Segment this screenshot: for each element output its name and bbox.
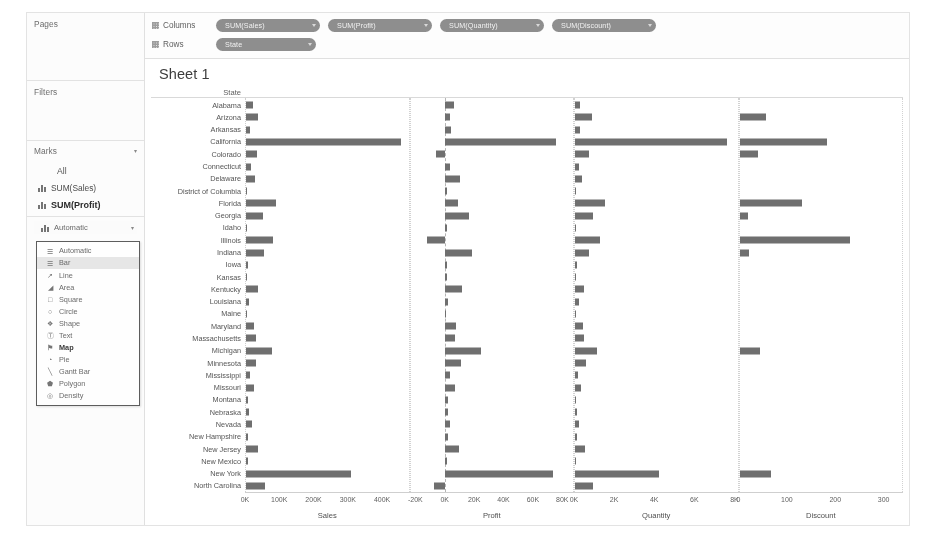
bar-mark[interactable]: [445, 138, 556, 145]
bar-mark[interactable]: [246, 409, 249, 416]
bar-mark[interactable]: [575, 102, 580, 109]
bar-mark[interactable]: [575, 175, 582, 182]
bar-mark[interactable]: [445, 433, 447, 440]
bar-mark[interactable]: [575, 114, 592, 121]
mark-type-option-gantt-bar[interactable]: ╲ Gantt Bar: [37, 366, 139, 378]
mark-type-option-pie[interactable]: ◔ Pie: [37, 354, 139, 366]
bar-mark[interactable]: [740, 151, 759, 158]
bar-mark[interactable]: [246, 384, 254, 391]
bar-mark[interactable]: [740, 114, 767, 121]
bar-mark[interactable]: [445, 458, 447, 465]
bar-mark[interactable]: [246, 360, 256, 367]
bar-mark[interactable]: [575, 360, 586, 367]
pill-sum-discount[interactable]: SUM(Discount): [552, 19, 656, 32]
bar-mark[interactable]: [740, 347, 761, 354]
bar-mark[interactable]: [740, 138, 828, 145]
bar-mark[interactable]: [246, 458, 248, 465]
mark-type-option-square[interactable]: □ Square: [37, 293, 139, 305]
bar-mark[interactable]: [246, 446, 258, 453]
bar-mark[interactable]: [575, 372, 578, 379]
marks-tab-sum-sales[interactable]: SUM(Sales): [34, 179, 137, 196]
mark-type-option-shape[interactable]: ❖ Shape: [37, 317, 139, 329]
bar-mark[interactable]: [246, 347, 272, 354]
bar-mark[interactable]: [575, 151, 589, 158]
bar-mark[interactable]: [445, 421, 450, 428]
bar-mark[interactable]: [246, 151, 257, 158]
bar-mark[interactable]: [575, 310, 576, 317]
bar-mark[interactable]: [434, 482, 445, 489]
bar-mark[interactable]: [427, 237, 445, 244]
bar-mark[interactable]: [246, 323, 254, 330]
mark-type-option-circle[interactable]: ○ Circle: [37, 305, 139, 317]
bar-mark[interactable]: [575, 261, 577, 268]
bar-mark[interactable]: [246, 163, 251, 170]
pages-shelf[interactable]: Pages: [27, 13, 144, 81]
bar-mark[interactable]: [575, 458, 576, 465]
bar-mark[interactable]: [445, 470, 552, 477]
axis-title[interactable]: Sales: [245, 511, 410, 520]
bar-mark[interactable]: [445, 212, 469, 219]
bar-mark[interactable]: [445, 310, 446, 317]
rows-shelf[interactable]: Rows State: [145, 35, 909, 54]
bar-mark[interactable]: [246, 482, 265, 489]
bar-mark[interactable]: [246, 249, 264, 256]
bar-mark[interactable]: [575, 384, 581, 391]
mark-type-option-line[interactable]: ↗ Line: [37, 269, 139, 281]
bar-mark[interactable]: [246, 286, 258, 293]
mark-type-dropdown-button[interactable]: Automatic ▾: [34, 221, 137, 234]
bar-mark[interactable]: [575, 470, 659, 477]
bar-mark[interactable]: [740, 212, 748, 219]
bar-mark[interactable]: [246, 114, 258, 121]
bar-mark[interactable]: [445, 347, 480, 354]
bar-mark[interactable]: [575, 237, 600, 244]
bar-mark[interactable]: [740, 470, 772, 477]
axis-title[interactable]: Profit: [410, 511, 575, 520]
bar-mark[interactable]: [246, 433, 248, 440]
pill-sum-quantity[interactable]: SUM(Quantity): [440, 19, 544, 32]
bar-mark[interactable]: [445, 261, 447, 268]
bar-mark[interactable]: [246, 224, 247, 231]
bar-mark[interactable]: [246, 237, 273, 244]
columns-shelf[interactable]: Columns SUM(Sales) SUM(Profit) SUM(Quant…: [145, 16, 909, 35]
bar-mark[interactable]: [740, 249, 749, 256]
bar-mark[interactable]: [575, 163, 579, 170]
bar-mark[interactable]: [575, 347, 597, 354]
bar-mark[interactable]: [445, 372, 450, 379]
bar-mark[interactable]: [445, 163, 450, 170]
bar-mark[interactable]: [445, 446, 459, 453]
mark-type-dropdown-menu[interactable]: ☰ Automatic ☰ Bar ↗ Line ◢ Area □ Squa: [36, 241, 140, 406]
bar-mark[interactable]: [445, 360, 461, 367]
bar-mark[interactable]: [575, 249, 589, 256]
bar-mark[interactable]: [575, 188, 576, 195]
mark-type-option-density[interactable]: ◎ Density: [37, 390, 139, 402]
bar-mark[interactable]: [246, 138, 401, 145]
pill-state[interactable]: State: [216, 38, 316, 51]
marks-tab-all[interactable]: All: [34, 162, 137, 179]
bar-mark[interactable]: [445, 384, 454, 391]
bar-mark[interactable]: [575, 409, 577, 416]
bar-mark[interactable]: [575, 298, 579, 305]
bar-mark[interactable]: [575, 335, 584, 342]
bar-mark[interactable]: [445, 298, 448, 305]
bar-mark[interactable]: [575, 224, 576, 231]
bar-mark[interactable]: [445, 274, 446, 281]
bar-mark[interactable]: [575, 446, 585, 453]
bar-mark[interactable]: [445, 200, 458, 207]
bar-mark[interactable]: [575, 482, 593, 489]
bar-mark[interactable]: [445, 224, 446, 231]
bar-mark[interactable]: [445, 249, 472, 256]
bar-mark[interactable]: [575, 433, 577, 440]
bar-mark[interactable]: [246, 102, 253, 109]
bar-mark[interactable]: [445, 126, 451, 133]
filters-shelf[interactable]: Filters: [27, 81, 144, 141]
bar-mark[interactable]: [740, 200, 802, 207]
bar-mark[interactable]: [246, 212, 263, 219]
bar-mark[interactable]: [246, 396, 248, 403]
pill-sum-profit[interactable]: SUM(Profit): [328, 19, 432, 32]
pill-sum-sales[interactable]: SUM(Sales): [216, 19, 320, 32]
mark-type-option-automatic[interactable]: ☰ Automatic: [37, 245, 139, 257]
marks-tab-sum-profit[interactable]: SUM(Profit): [34, 196, 137, 213]
bar-mark[interactable]: [445, 323, 455, 330]
bar-mark[interactable]: [575, 421, 579, 428]
chevron-down-icon[interactable]: ▾: [134, 148, 137, 154]
